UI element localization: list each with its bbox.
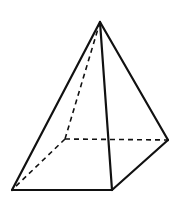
- visible-edge-apex-to-front-right: [100, 22, 112, 190]
- visible-edge-apex-to-back-right: [100, 22, 168, 140]
- visible-edge-front-right-to-back-right: [112, 140, 168, 190]
- hidden-edges: [12, 22, 168, 190]
- square-pyramid-diagram: [0, 0, 182, 213]
- hidden-edge-back-left-hidden-to-back-right: [65, 139, 168, 140]
- visible-edges: [12, 22, 168, 190]
- hidden-edge-back-left-hidden-to-front-left: [12, 139, 65, 190]
- visible-edge-apex-to-front-left: [12, 22, 100, 190]
